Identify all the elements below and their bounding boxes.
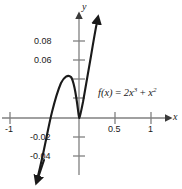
x-axis-label: x	[173, 112, 177, 122]
fn-prefix: f(x)	[98, 87, 115, 98]
y-tick-label-0p08: 0.08	[34, 36, 52, 46]
y-tick-label-0p06: 0.06	[34, 55, 52, 65]
y-axis-label: y	[82, 2, 86, 12]
y-tick-label-neg0p04: -0.04	[30, 151, 51, 161]
fn-plus: +	[137, 87, 148, 98]
x-axis	[2, 112, 166, 124]
y-tick-label-neg0p02: -0.02	[30, 132, 51, 142]
function-equation-label: f(x) = 2x3 + x2	[98, 87, 157, 99]
fn-term1: 2x	[124, 87, 134, 98]
x-tick-label-neg1: -1	[5, 124, 13, 134]
fn-term2-exponent: 2	[153, 86, 157, 94]
x-tick-label-0p5: 0.5	[108, 124, 121, 134]
function-graph-figure: 0.08 0.06 -0.02 -0.04 -1 0.5 1 y x f(x) …	[0, 0, 182, 189]
fn-equals: =	[115, 87, 124, 98]
x-tick-label-1: 1	[148, 124, 153, 134]
